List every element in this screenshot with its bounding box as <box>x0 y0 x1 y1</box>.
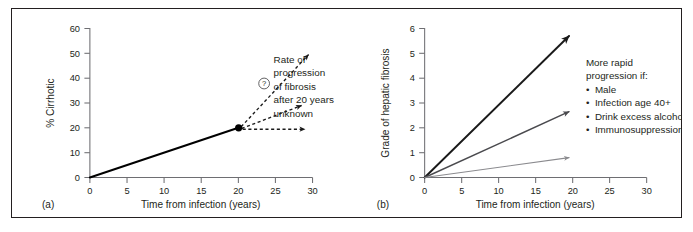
rapid-progression-line <box>424 36 568 178</box>
annotation-line: Rate of <box>274 54 306 65</box>
bullet-item: Immunosuppression <box>594 124 681 135</box>
y-axis-ticks-a <box>84 29 89 178</box>
annotation-line: unknown <box>274 108 314 119</box>
x-ticklabel: 0 <box>87 186 92 196</box>
y-ticklabel: 10 <box>70 148 80 158</box>
y-ticklabel: 1 <box>409 148 414 158</box>
x-ticklabel: 30 <box>307 186 317 196</box>
y-axis-ticklabels-a: 0 10 20 30 40 50 60 <box>70 24 80 183</box>
y-ticklabel: 20 <box>70 123 80 133</box>
x-axis-ticklabels-a: 0 5 10 15 20 25 30 <box>87 186 317 196</box>
y-ticklabel: 0 <box>75 173 80 183</box>
y-ticklabel: 2 <box>409 123 414 133</box>
y-ticklabel: 30 <box>70 98 80 108</box>
x-ticklabel: 30 <box>641 186 651 196</box>
bullet-glyph: • <box>585 111 589 122</box>
y-ticklabel: 60 <box>70 24 80 34</box>
annotation-line: progression <box>274 67 326 78</box>
annotation-line: after 20 years <box>274 94 334 105</box>
x-ticklabel: 10 <box>159 186 169 196</box>
x-ticklabel: 20 <box>233 186 243 196</box>
y-axis-ticklabels-b: 0 1 2 3 4 5 6 <box>409 24 414 183</box>
x-ticklabel: 15 <box>530 186 540 196</box>
x-ticklabel: 5 <box>459 186 464 196</box>
question-mark-glyph: ? <box>262 79 266 88</box>
bullet-item: Male <box>594 84 616 95</box>
annotation-heading: progression if: <box>585 70 647 81</box>
x-ticklabel: 5 <box>124 186 129 196</box>
bullet-glyph: • <box>585 84 589 95</box>
x-ticklabel: 10 <box>493 186 503 196</box>
y-ticklabel: 50 <box>70 49 80 59</box>
x-axis-ticks-b <box>424 178 646 184</box>
y-ticklabel: 3 <box>409 98 414 108</box>
panel-b: 0 1 2 3 4 5 6 <box>347 9 682 217</box>
bullet-glyph: • <box>585 97 589 108</box>
x-ticklabel: 15 <box>196 186 206 196</box>
bullet-glyph: • <box>585 124 589 135</box>
y-ticklabel: 5 <box>409 49 414 59</box>
x-ticklabel: 20 <box>567 186 577 196</box>
panel-b-chart: 0 1 2 3 4 5 6 <box>347 9 682 217</box>
panel-a: 0 10 20 30 40 50 60 <box>12 9 347 217</box>
annotation-text-a: Rate of progression of fibrosis after 20… <box>274 54 334 119</box>
x-axis-ticklabels-b: 0 5 10 15 20 25 30 <box>422 186 652 196</box>
x-ticklabel: 0 <box>422 186 427 196</box>
x-ticklabel: 25 <box>270 186 280 196</box>
data-point-marker-20yr <box>235 124 242 131</box>
x-axis-title-b: Time from infection (years) <box>475 199 594 210</box>
y-axis-title-a: % Cirrhotic <box>45 78 56 127</box>
y-ticklabel: 6 <box>409 24 414 34</box>
y-ticklabel: 4 <box>409 73 414 83</box>
panel-label-b: (b) <box>376 199 388 210</box>
annotation-line: of fibrosis <box>274 81 316 92</box>
annotation-heading: More rapid <box>585 57 632 68</box>
annotation-text-b: More rapid progression if: • Male • Infe… <box>585 57 681 136</box>
x-ticklabel: 25 <box>604 186 614 196</box>
y-axis-title-b: Grade of hepatic fibrosis <box>379 48 390 157</box>
figure-frame: 0 10 20 30 40 50 60 <box>11 8 682 218</box>
bullet-item: Infection age 40+ <box>594 97 670 108</box>
question-mark-icon: ? <box>259 78 270 89</box>
x-axis-ticks-a <box>90 178 313 184</box>
observed-progression-line <box>90 128 238 178</box>
figure-container: 0 10 20 30 40 50 60 <box>0 0 693 232</box>
panel-label-a: (a) <box>42 199 54 210</box>
y-axis-ticks-b <box>419 29 424 178</box>
x-axis-title-a: Time from infection (years) <box>141 199 260 210</box>
panel-a-chart: 0 10 20 30 40 50 60 <box>12 9 347 217</box>
y-ticklabel: 0 <box>409 173 414 183</box>
bullet-item: Drink excess alcohol <box>594 111 681 122</box>
y-ticklabel: 40 <box>70 73 80 83</box>
